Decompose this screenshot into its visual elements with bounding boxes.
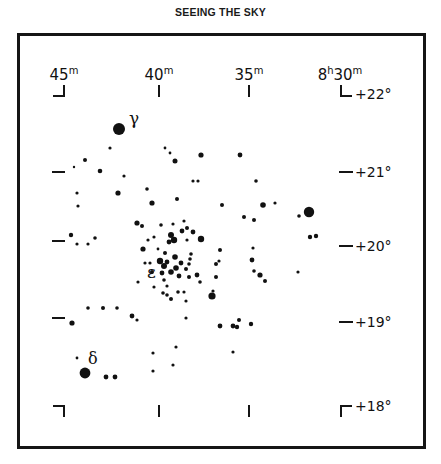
star-label: ε (147, 262, 156, 282)
star-dot (73, 166, 75, 168)
star-dot (185, 238, 188, 241)
dec-tick-label: +20° (355, 238, 392, 254)
ra-tick-label: 40m (145, 65, 174, 84)
star-dot (152, 235, 155, 238)
dec-tick-label: +22° (355, 86, 392, 102)
dec-tick-label: +21° (355, 164, 392, 180)
star-dot (108, 146, 111, 149)
star-dot (195, 273, 200, 278)
star-dot (189, 252, 193, 256)
star-dot (76, 357, 79, 360)
star-dot (263, 279, 267, 283)
star-dot (69, 233, 73, 237)
star-dot (179, 261, 184, 266)
star-dot (151, 369, 154, 372)
star-dot (113, 375, 118, 380)
star-dot (187, 275, 191, 279)
star-dot (75, 191, 78, 194)
star-dot (160, 271, 165, 276)
ra-tick-label: 8h30m (318, 65, 363, 84)
star-dot (115, 306, 119, 310)
star-dot (76, 204, 79, 207)
star-dot (250, 258, 255, 263)
star-dot (196, 179, 199, 182)
star-dot (164, 147, 167, 150)
dec-tick-label: +18° (355, 398, 392, 414)
star-dot (191, 230, 196, 235)
star-dot (198, 152, 203, 157)
star-dot (297, 214, 301, 218)
star-dot (172, 254, 178, 260)
star-dot (254, 179, 258, 183)
star-dot (187, 262, 191, 266)
star-dot (242, 215, 246, 219)
star-dot (260, 202, 266, 208)
star-dot (165, 260, 170, 265)
star-dot (188, 257, 192, 261)
star-dot (101, 306, 105, 310)
star-dot (98, 169, 103, 174)
star-dot (165, 284, 168, 287)
star-dot (104, 375, 109, 380)
star-dot (314, 234, 318, 238)
star-dot (136, 280, 139, 283)
axis-labels: 45m40m35m8h30m+22°+21°+20°+19°+18° (50, 65, 392, 414)
star-dot (252, 269, 256, 273)
star-dot (235, 325, 239, 329)
star-dot (171, 237, 177, 243)
star-dot (122, 174, 125, 177)
star-dot (140, 246, 145, 251)
star-labels: γεδ (88, 108, 156, 368)
star-dot (252, 218, 256, 222)
star-dot (184, 267, 188, 271)
star-dot (145, 187, 149, 191)
star-dot (146, 238, 149, 241)
star-dot (171, 222, 174, 225)
star-dot (152, 285, 155, 288)
axis-tick-mark (54, 406, 64, 416)
star-dot (231, 324, 236, 329)
star-dot (257, 272, 262, 277)
axis-marks (53, 86, 352, 416)
star-dot (168, 269, 174, 275)
star-dot (308, 235, 312, 239)
star-dot (174, 345, 177, 348)
star-dot (86, 242, 89, 245)
star-dot (238, 153, 243, 158)
star-dot (151, 351, 154, 354)
star-dot (157, 258, 163, 264)
star-dot (191, 179, 194, 182)
star-dot (93, 236, 97, 240)
star-dot (115, 190, 120, 195)
star-dot (198, 280, 202, 284)
star-dot (161, 291, 165, 295)
star-dot (237, 318, 241, 322)
star-field (69, 123, 318, 379)
star-dot (162, 278, 166, 282)
star-dot (184, 299, 187, 302)
star-dot (184, 316, 187, 319)
star-dot (251, 246, 254, 249)
star-dot (180, 229, 185, 234)
star-dot (296, 270, 299, 273)
star-dot (220, 203, 224, 207)
star-dot (211, 289, 214, 292)
star-dot (167, 240, 172, 245)
star-dot (185, 226, 189, 230)
star-dot (169, 152, 172, 155)
star-dot (86, 306, 90, 310)
star-dot (134, 220, 139, 225)
star-label: δ (88, 349, 98, 368)
star-dot (231, 350, 234, 353)
star-dot (69, 320, 74, 325)
ra-tick-label: 35m (235, 65, 264, 84)
star-dot (140, 224, 144, 228)
star-dot (83, 158, 87, 162)
star-dot (173, 265, 179, 271)
star-dot (214, 262, 218, 266)
star-dot (163, 251, 167, 255)
star-dot (177, 274, 182, 279)
axis-tick-mark (54, 86, 64, 96)
star-dot (149, 200, 154, 205)
star-dot (218, 248, 222, 252)
